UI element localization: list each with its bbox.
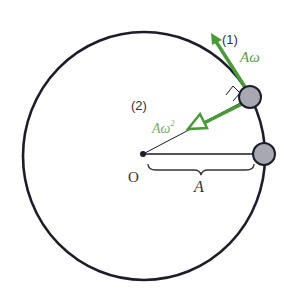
accel-arrow-head — [188, 114, 207, 129]
radius-label: A — [193, 178, 204, 195]
accel-index-label: (2) — [131, 98, 147, 113]
ball-upper — [239, 86, 261, 108]
right-angle-marker — [226, 86, 240, 101]
ball-right — [253, 143, 275, 165]
origin-dot — [140, 151, 146, 157]
velocity-label: Aω — [239, 49, 260, 65]
accel-label: Aω2 — [151, 119, 174, 136]
accel-arrow-shaft — [204, 103, 244, 123]
circular-motion-diagram: (1) Aω (2) Aω2 O A — [0, 0, 289, 301]
origin-label: O — [128, 169, 139, 185]
radius-brace — [148, 164, 254, 175]
velocity-index-label: (1) — [222, 32, 238, 47]
velocity-arrow-shaft — [215, 40, 247, 90]
